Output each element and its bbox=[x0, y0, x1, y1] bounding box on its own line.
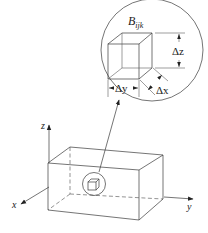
x-axis bbox=[21, 187, 49, 204]
x-axis-label: x bbox=[11, 199, 17, 210]
delta-z-label: Δz bbox=[172, 45, 184, 57]
magnify-leader-arrow bbox=[99, 100, 119, 172]
delta-x-label: Δx bbox=[156, 84, 169, 96]
diagram-canvas: Bijk Δz Δy Δx z bbox=[0, 0, 208, 233]
y-axis bbox=[164, 197, 193, 199]
z-axis-label: z bbox=[40, 120, 45, 131]
axes: z x y bbox=[11, 120, 193, 212]
delta-x-dimension: Δx bbox=[140, 68, 169, 96]
delta-y-label: Δy bbox=[115, 82, 128, 94]
delta-z-dimension: Δz bbox=[155, 33, 185, 68]
y-axis-label: y bbox=[186, 201, 192, 212]
selected-cell-marker bbox=[83, 173, 106, 196]
block-label: Bijk bbox=[128, 14, 144, 30]
cell-cube bbox=[108, 33, 152, 79]
magnified-view: Bijk Δz Δy Δx bbox=[101, 0, 203, 101]
cell-circle bbox=[83, 173, 106, 196]
